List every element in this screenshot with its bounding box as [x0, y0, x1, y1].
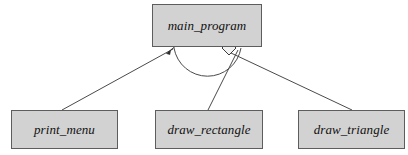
edge-main-program-to-draw-rectangle: [208, 50, 238, 110]
iteration-arc: [174, 48, 241, 76]
node-print-menu[interactable]: print_menu: [11, 110, 118, 149]
node-draw-rectangle[interactable]: draw_rectangle: [155, 110, 263, 149]
edge-main-program-to-draw-triangle: [231, 53, 352, 110]
node-print-menu-label: print_menu: [34, 123, 95, 136]
node-main-program[interactable]: main_program: [152, 4, 262, 47]
node-draw-triangle[interactable]: draw_triangle: [298, 110, 405, 149]
edge-main-program-to-print-menu: [62, 49, 173, 110]
call-arrowhead-icon: [167, 47, 176, 55]
node-draw-rectangle-label: draw_rectangle: [167, 123, 250, 136]
node-draw-triangle-label: draw_triangle: [314, 123, 390, 136]
structure-chart-diagram: main_program print_menu draw_rectangle d…: [0, 0, 408, 155]
node-main-program-label: main_program: [168, 19, 247, 32]
